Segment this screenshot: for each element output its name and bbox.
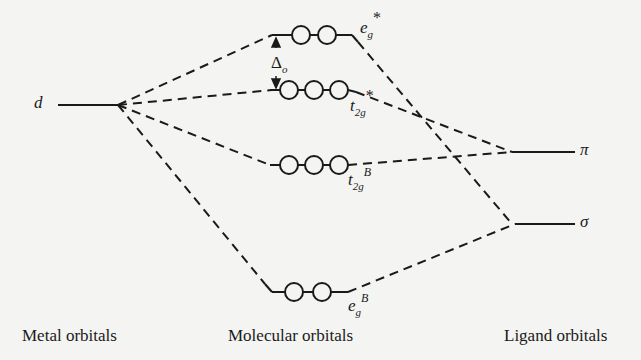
- column-label-ligand: Ligand orbitals: [504, 326, 607, 346]
- column-label-molecular: Molecular orbitals: [228, 326, 353, 346]
- t2g-star-label: t2g*: [350, 96, 374, 116]
- eg-star-level: [272, 26, 358, 44]
- orbital-circle: [318, 26, 336, 44]
- correlation-lines: [118, 35, 515, 292]
- orbital-circle: [280, 81, 298, 99]
- column-label-metal: Metal orbitals: [22, 326, 117, 346]
- t2g-star-level: [270, 81, 356, 99]
- ligand-sigma-label: σ: [580, 212, 588, 232]
- eg-bonding-level: [265, 283, 348, 301]
- metal-d-label: d: [34, 93, 43, 113]
- orbital-circle: [292, 26, 310, 44]
- orbital-circle: [285, 283, 303, 301]
- t2g-bonding-label: t2gB: [348, 170, 371, 190]
- orbital-circle: [305, 156, 323, 174]
- t2g-bonding-level: [270, 156, 348, 174]
- orbital-circle: [280, 156, 298, 174]
- orbital-circle: [305, 81, 323, 99]
- orbital-circle: [313, 283, 331, 301]
- eg-bonding-label: egB: [348, 296, 368, 316]
- eg-star-label: eg*: [360, 18, 381, 38]
- orbital-circle: [330, 156, 348, 174]
- delta-o-label: Δo: [271, 53, 287, 73]
- mo-diagram-canvas: [0, 0, 641, 360]
- ligand-pi-label: π: [580, 140, 589, 160]
- orbital-circle: [330, 81, 348, 99]
